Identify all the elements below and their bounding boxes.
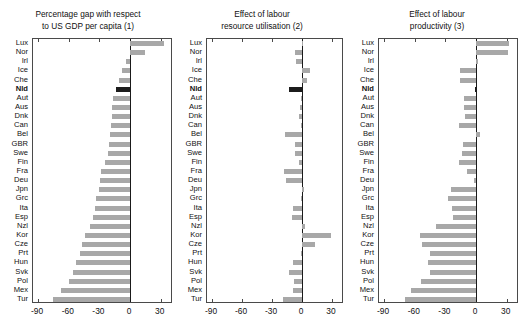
x-axis-labels-3: -90-60-30030 (378, 306, 518, 320)
country-label-hun: Hun (174, 257, 202, 266)
bar (292, 215, 302, 220)
country-label-che: Che (0, 75, 28, 84)
country-label-hun: Hun (346, 257, 374, 266)
x-tick-label: 30 (501, 306, 510, 317)
bar (295, 142, 302, 147)
country-label-fin: Fin (174, 157, 202, 166)
x-tick-mark (161, 299, 162, 302)
country-label-dnk: Dnk (346, 111, 374, 120)
bar (53, 297, 130, 302)
country-label-kor: Kor (0, 230, 28, 239)
bar (113, 96, 130, 101)
bar (93, 215, 130, 220)
bar (105, 160, 131, 165)
country-labels-3: LuxNorIrlIceCheNldAutAusDnkCanBelGBRSweF… (348, 38, 376, 303)
plot-area-3 (378, 38, 518, 303)
country-label-tur: Tur (174, 294, 202, 303)
bar (299, 160, 302, 165)
country-label-svk: Svk (346, 267, 374, 276)
bar (112, 105, 130, 110)
country-label-svk: Svk (174, 267, 202, 276)
bar (126, 59, 130, 64)
country-label-aut: Aut (346, 93, 374, 102)
bar (109, 142, 130, 147)
country-label-lux: Lux (0, 38, 28, 47)
bar (295, 151, 302, 156)
bar (130, 41, 164, 46)
country-label-ita: Ita (346, 203, 374, 212)
country-label-ice: Ice (0, 65, 28, 74)
country-label-aus: Aus (346, 102, 374, 111)
bar (463, 142, 476, 147)
bar (436, 224, 476, 229)
country-label-jpn: Jpn (346, 184, 374, 193)
bar (96, 196, 130, 201)
x-tick-mark (332, 39, 333, 42)
country-label-nzl: Nzl (174, 221, 202, 230)
x-axis-labels-1: -90-60-30030 (32, 306, 172, 320)
x-tick-label: -30 (438, 306, 450, 317)
bar (467, 169, 476, 174)
figure-root: Percentage gap with respectto US GDP per… (0, 0, 526, 328)
bar (302, 41, 303, 46)
country-label-can: Can (174, 120, 202, 129)
bar-highlighted (116, 87, 130, 92)
country-label-gbr: GBR (174, 139, 202, 148)
country-label-esp: Esp (174, 212, 202, 221)
bar (90, 224, 130, 229)
country-label-mex: Mex (346, 285, 374, 294)
bar (422, 242, 476, 247)
bar (82, 242, 130, 247)
x-tick-label: 30 (155, 306, 164, 317)
bar (301, 96, 302, 101)
x-tick-label: 0 (299, 306, 304, 317)
bar (296, 59, 302, 64)
country-label-tur: Tur (346, 294, 374, 303)
bar (421, 279, 476, 284)
bar (300, 105, 302, 110)
country-label-prt: Prt (346, 248, 374, 257)
x-tick-mark (99, 39, 100, 42)
bar (302, 187, 304, 192)
country-label-mex: Mex (0, 285, 28, 294)
bar (420, 233, 476, 238)
country-label-gbr: GBR (346, 139, 374, 148)
x-tick-label: 30 (326, 306, 335, 317)
country-label-fra: Fra (174, 166, 202, 175)
bar (80, 251, 130, 256)
panel-title-line: Effect of labour (176, 9, 348, 21)
bar (95, 206, 130, 211)
country-label-bel: Bel (174, 129, 202, 138)
bar (76, 260, 130, 265)
country-label-jpn: Jpn (0, 184, 28, 193)
x-tick-label: -90 (377, 306, 389, 317)
bar (453, 215, 477, 220)
x-tick-mark (38, 299, 39, 302)
bar (284, 169, 302, 174)
country-label-che: Che (346, 75, 374, 84)
country-label-cze: Cze (346, 239, 374, 248)
country-label-nld: Nld (0, 84, 28, 93)
country-label-deu: Deu (174, 175, 202, 184)
country-label-esp: Esp (0, 212, 28, 221)
bar-highlighted (475, 87, 476, 92)
country-label-pol: Pol (346, 276, 374, 285)
bar (405, 297, 477, 302)
x-tick-mark (212, 39, 213, 42)
bar (476, 59, 478, 64)
bar (111, 123, 130, 128)
country-label-nor: Nor (0, 47, 28, 56)
x-tick-mark (242, 39, 243, 42)
bar (430, 270, 476, 275)
country-label-irl: Irl (174, 56, 202, 65)
panel-title-1: Percentage gap with respectto US GDP per… (0, 9, 176, 35)
country-label-bel: Bel (0, 129, 28, 138)
country-label-bel: Bel (346, 129, 374, 138)
country-label-swe: Swe (174, 148, 202, 157)
country-label-fra: Fra (0, 166, 28, 175)
bar (476, 50, 508, 55)
country-labels-1: LuxNorIrlIceCheNldAutAusDnkCanBelGBRSweF… (0, 38, 30, 303)
country-label-cze: Cze (0, 239, 28, 248)
country-label-deu: Deu (0, 175, 28, 184)
bar (462, 151, 476, 156)
